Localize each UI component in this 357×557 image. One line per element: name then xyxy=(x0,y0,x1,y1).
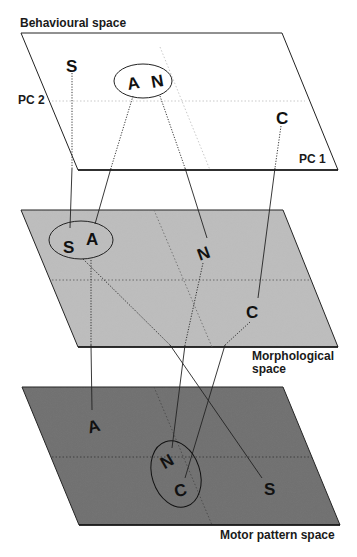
pc2-axis-label: PC 2 xyxy=(18,94,45,107)
point-behavioural-c: C xyxy=(276,109,288,128)
three-space-diagram: S A N C S A N C A N C S Behavioural spac… xyxy=(0,0,357,557)
point-behavioural-s: S xyxy=(66,57,77,76)
pc1-axis-label: PC 1 xyxy=(299,153,326,166)
morphological-space-label-line2: space xyxy=(252,363,286,376)
point-morphological-a: A xyxy=(86,230,98,249)
behavioural-space-label: Behavioural space xyxy=(20,17,126,30)
behavioural-plane xyxy=(21,33,338,170)
point-morphological-c: C xyxy=(246,303,258,322)
point-morphological-s: S xyxy=(63,238,74,257)
motor-pattern-space-label: Motor pattern space xyxy=(220,529,335,542)
point-motor-s: S xyxy=(264,480,275,499)
diagram-canvas: S A N C S A N C A N C S xyxy=(0,0,357,557)
